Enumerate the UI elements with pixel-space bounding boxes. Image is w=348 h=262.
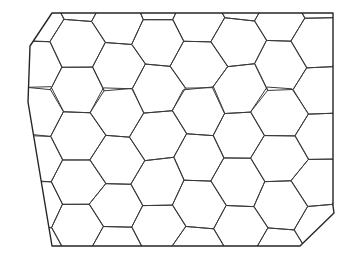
hexagonal-grid-figure [0,0,348,262]
figure-background [0,0,348,262]
hexagonal-grid-canvas [0,0,348,262]
